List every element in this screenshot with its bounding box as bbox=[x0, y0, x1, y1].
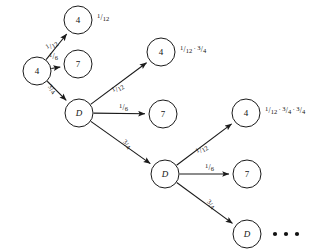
tree-edge bbox=[91, 121, 150, 163]
fraction: 3/4 bbox=[296, 106, 305, 115]
fraction: 1/6 bbox=[49, 52, 58, 61]
fraction-denominator: 4 bbox=[203, 47, 206, 54]
fraction-denominator: 6 bbox=[55, 54, 58, 61]
edge-probability-label: 1/6 bbox=[119, 103, 128, 112]
fraction-numerator: 3 bbox=[282, 105, 285, 112]
tree-node[interactable]: D bbox=[233, 220, 261, 248]
fraction: 1/12 bbox=[265, 106, 277, 115]
node-label: 4 bbox=[159, 47, 164, 57]
fraction-denominator: 6 bbox=[211, 165, 214, 172]
edge-probability-label: 1/6 bbox=[205, 163, 214, 172]
node-label: 4 bbox=[35, 66, 40, 76]
fraction-numerator: 3 bbox=[296, 105, 299, 112]
ellipsis-layer bbox=[273, 232, 299, 236]
node-label: 7 bbox=[161, 109, 166, 119]
node-label: 4 bbox=[76, 15, 81, 25]
fraction: 1/12 bbox=[97, 13, 109, 22]
cumulative-probability-label: 1/12·3/4 bbox=[180, 45, 206, 54]
fraction-denominator: 12 bbox=[103, 15, 110, 22]
edge-probability-label: 1/6 bbox=[49, 52, 58, 61]
node-label: D bbox=[243, 229, 251, 239]
ellipsis-dot bbox=[273, 232, 277, 236]
fraction-numerator: 3 bbox=[197, 44, 200, 51]
node-label: 4 bbox=[244, 108, 249, 118]
tree-node[interactable]: 4 bbox=[232, 99, 260, 127]
nodes-layer: 447D47D47D bbox=[23, 6, 261, 248]
fraction-denominator: 6 bbox=[125, 105, 128, 112]
fraction: 3/4 bbox=[197, 45, 206, 54]
tree-node[interactable]: D bbox=[65, 99, 93, 127]
node-label: 7 bbox=[76, 59, 81, 69]
cumulative-probability-label: 1/12 bbox=[97, 13, 109, 22]
fraction-denominator: 4 bbox=[302, 108, 305, 115]
tree-node[interactable]: 7 bbox=[149, 100, 177, 128]
tree-node[interactable]: 7 bbox=[233, 160, 261, 188]
fraction: 1/6 bbox=[205, 163, 214, 172]
node-label: D bbox=[161, 169, 169, 179]
fraction: 1/6 bbox=[119, 103, 128, 112]
cumulative-probability-label: 1/12·3/4·3/4 bbox=[265, 106, 305, 115]
fraction: 3/4 bbox=[282, 106, 291, 115]
tree-edge bbox=[94, 113, 146, 114]
tree-node[interactable]: 7 bbox=[64, 50, 92, 78]
tree-graph-canvas: 447D47D47D bbox=[0, 0, 313, 251]
fraction: 1/12 bbox=[180, 45, 192, 54]
node-label: 7 bbox=[245, 169, 250, 179]
ellipsis-dot bbox=[295, 232, 299, 236]
tree-node[interactable]: 4 bbox=[23, 57, 51, 85]
tree-node[interactable]: 4 bbox=[64, 6, 92, 34]
node-label: D bbox=[75, 108, 83, 118]
probability-tree-diagram: 447D47D47D 1/121/63/41/121/63/41/121/63/… bbox=[0, 0, 313, 251]
tree-edge bbox=[51, 67, 60, 69]
tree-node[interactable]: 4 bbox=[147, 38, 175, 66]
ellipsis-dot bbox=[284, 232, 288, 236]
tree-node[interactable]: D bbox=[151, 160, 179, 188]
